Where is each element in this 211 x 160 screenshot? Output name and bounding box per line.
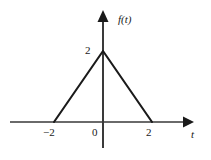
y-axis-arrow-icon (98, 10, 109, 22)
x-tick-label-minus-2: −2 (43, 127, 55, 138)
waveform-rising-edge (54, 51, 103, 122)
y-tick-label-2: 2 (85, 45, 91, 56)
triangular-function-plot (0, 0, 211, 160)
x-axis-arrow-icon (183, 117, 194, 128)
x-tick-label-0: 0 (92, 127, 98, 138)
x-axis-label: t (191, 129, 194, 140)
function-axis-label: f(t) (118, 14, 131, 25)
figure-container: f(t) t 2 −2 0 2 (0, 0, 211, 160)
x-tick-label-2: 2 (146, 127, 152, 138)
waveform-falling-edge (103, 51, 152, 122)
